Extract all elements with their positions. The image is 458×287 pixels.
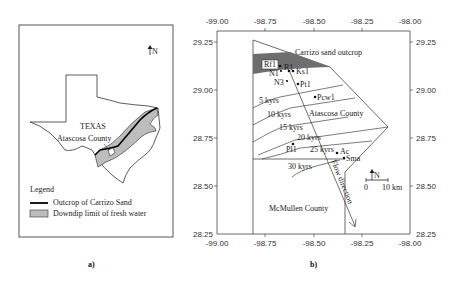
svg-text:28.25: 28.25	[416, 230, 437, 239]
svg-text:0: 0	[364, 183, 368, 192]
svg-text:-98.75: -98.75	[254, 239, 277, 248]
well-label-pcw1: Pcw1	[317, 93, 335, 102]
svg-text:-98.50: -98.50	[303, 17, 326, 26]
svg-text:29.25: 29.25	[193, 38, 214, 47]
legend-item-freshwater: Downdip limit of fresh water	[53, 209, 147, 218]
legend-freshwater-symbol	[30, 210, 48, 217]
isochron-label-25: 25 kyrs	[310, 145, 334, 154]
atascosa-county-label: Atascosa County	[309, 109, 363, 118]
panel-b-isochron-map: -99.00 -98.75 -98.50 -98.25 -98.00 -99.0…	[193, 17, 437, 269]
north-arrow-icon: N	[370, 169, 381, 180]
svg-text:-99.00: -99.00	[206, 17, 229, 26]
well-label-n1: N1	[269, 69, 279, 78]
well-label-pt1: Pt1	[300, 80, 311, 89]
well-label-sma: Sma	[346, 154, 361, 163]
isochron-label-5: 5 kyrs	[259, 96, 279, 105]
isochron-label-30: 30 kyrs	[288, 162, 312, 171]
isochron-label-10: 10 kyrs	[267, 110, 291, 119]
x-axis-bottom: -99.00 -98.75 -98.50 -98.25 -98.00	[206, 234, 422, 248]
svg-text:29.00: 29.00	[193, 86, 214, 95]
well-label-r1: R1	[284, 63, 293, 72]
well-label-n3: N3	[274, 78, 284, 87]
north-label: N	[152, 47, 158, 56]
svg-text:-98.00: -98.00	[399, 17, 422, 26]
svg-text:29.25: 29.25	[416, 38, 437, 47]
well-label-rf1: Rf1	[264, 60, 276, 69]
svg-text:28.50: 28.50	[193, 182, 214, 191]
isochron-label-15: 15 kyrs	[279, 123, 303, 132]
svg-text:28.75: 28.75	[193, 134, 214, 143]
svg-text:-98.25: -98.25	[351, 17, 374, 26]
well-label-pl1: Pl1	[286, 145, 297, 154]
svg-text:-98.50: -98.50	[303, 239, 326, 248]
mcmullen-county-label: McMullen County	[269, 204, 328, 213]
svg-text:29.00: 29.00	[416, 86, 437, 95]
x-axis-top: -99.00 -98.75 -98.50 -98.25 -98.00	[206, 17, 422, 31]
y-axis-right: 29.25 29.00 28.75 28.50 28.25	[410, 38, 437, 239]
svg-text:-99.00: -99.00	[206, 239, 229, 248]
north-label-b: N	[374, 171, 380, 180]
svg-text:10 km: 10 km	[382, 183, 403, 192]
svg-text:-98.00: -98.00	[399, 239, 422, 248]
outcrop-label: Carrizo sand outcrop	[295, 48, 362, 57]
caption-b: b)	[310, 260, 317, 269]
caption-a: a)	[88, 260, 95, 269]
svg-text:-98.25: -98.25	[351, 239, 374, 248]
svg-text:28.25: 28.25	[193, 230, 214, 239]
scale-bar: 0 10 km	[364, 178, 403, 192]
atascosa-label: Atascosa County	[57, 134, 111, 143]
well-label-ks1: Ks1	[296, 67, 309, 76]
legend-item-outcrop: Outcrop of Carrizo Sand	[53, 198, 132, 207]
svg-text:-98.75: -98.75	[254, 17, 277, 26]
panel-a-texas-map: N TEXAS Atascosa County Legend Outcrop o…	[19, 25, 173, 269]
svg-text:28.50: 28.50	[416, 182, 437, 191]
texas-label: TEXAS	[80, 122, 106, 131]
legend-title: Legend	[30, 185, 54, 194]
svg-text:28.75: 28.75	[416, 134, 437, 143]
y-axis-left: 29.25 29.00 28.75 28.50 28.25	[193, 38, 217, 239]
